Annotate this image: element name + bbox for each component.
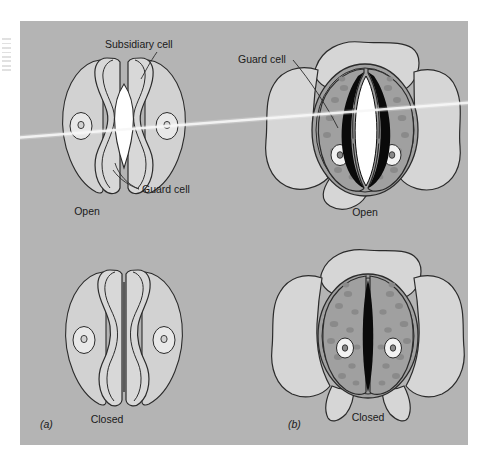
subsidiary-nucleus-left-closed: [73, 327, 95, 354]
stoma-b-open: Open: [266, 42, 461, 218]
state-label-a-closed: Closed: [91, 413, 124, 425]
subsidiary-nucleus-right-closed: [153, 327, 175, 354]
stoma-b-closed: Closed: [272, 250, 465, 423]
stomata-diagram: Open Subsidiary cell Guard cell: [0, 0, 491, 469]
state-label-a-open: Open: [74, 205, 100, 217]
state-label-b-open: Open: [352, 206, 378, 218]
callout-guard-cell-b-label: Guard cell: [238, 53, 286, 65]
guard-cell-nucleus-right-closed: [385, 338, 402, 358]
state-label-b-closed: Closed: [352, 411, 385, 423]
callout-subsidiary-cell-label: Subsidiary cell: [105, 38, 173, 50]
callout-guard-cell-a-label: Guard cell: [142, 183, 190, 195]
guard-cell-nucleus-left-closed: [337, 338, 354, 358]
panel-label-a: (a): [40, 418, 53, 430]
stoma-a-closed: Closed: [66, 270, 183, 425]
figure-page: Open Subsidiary cell Guard cell: [0, 0, 491, 469]
panel-label-b: (b): [288, 418, 301, 430]
